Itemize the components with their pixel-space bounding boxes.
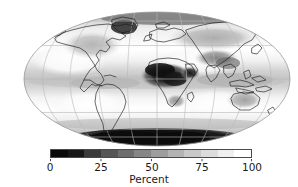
colorbar-segment-1 [68, 150, 85, 157]
colorbar-segment-6 [151, 150, 168, 157]
colorbar-segment-0 [51, 150, 68, 157]
colorbar-segment-11 [234, 150, 251, 157]
colorbar-segment-5 [134, 150, 151, 157]
colorbar-gradient-bar [50, 149, 252, 158]
colorbar-segment-4 [118, 150, 135, 157]
colorbar-segment-9 [201, 150, 218, 157]
figure-root: 0 25 50 75 100 Percent [0, 0, 298, 187]
colorbar-segment-3 [101, 150, 118, 157]
map-canvas [0, 0, 298, 150]
colorbar-segment-7 [168, 150, 185, 157]
colorbar-segment-10 [218, 150, 235, 157]
colorbar-axis-label: Percent [0, 173, 298, 186]
colorbar-segment-8 [184, 150, 201, 157]
colorbar-segment-2 [84, 150, 101, 157]
colorbar: 0 25 50 75 100 Percent [0, 146, 298, 187]
global-map [0, 0, 298, 150]
